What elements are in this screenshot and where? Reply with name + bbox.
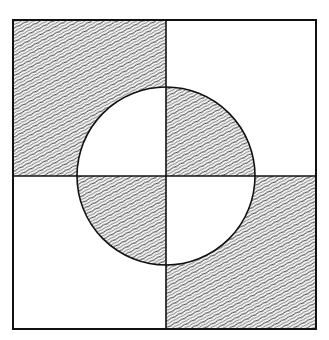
hatched-circle-quarter-top-right	[166, 20, 316, 176]
figure-canvas	[0, 0, 329, 340]
hatched-circle-quarter-bottom-left	[13, 176, 166, 329]
hatched-region-bottom-right	[166, 176, 316, 329]
hatched-region-top-left	[13, 20, 166, 176]
